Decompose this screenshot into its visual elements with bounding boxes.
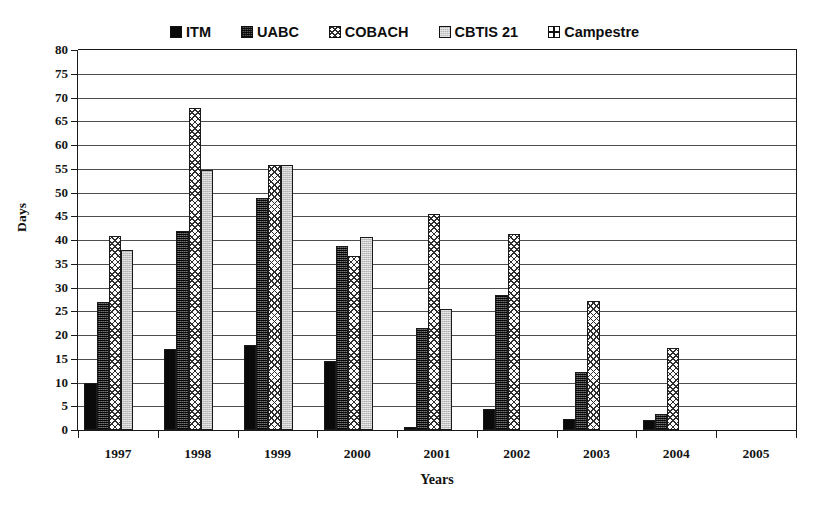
bar-uabc-1997	[97, 302, 109, 430]
x-axis-tick-label: 2001	[424, 446, 451, 462]
y-axis-tick	[71, 240, 78, 241]
bar-cbtis-21-1997	[121, 250, 133, 431]
gridline	[78, 193, 796, 194]
gridline	[78, 169, 796, 170]
y-axis-tick	[71, 216, 78, 217]
x-axis-tick	[317, 430, 318, 438]
bar-uabc-2001	[416, 328, 428, 430]
y-axis-tick	[71, 74, 78, 75]
bar-cobach-1998	[189, 108, 201, 430]
bar-itm-2001	[404, 427, 416, 430]
legend-item-uabc[interactable]: UABC	[241, 25, 299, 40]
y-axis-tick	[71, 193, 78, 194]
y-axis-tick-label: 50	[55, 185, 68, 201]
x-axis-tick-label: 2003	[583, 446, 610, 462]
bar-uabc-2004	[655, 414, 667, 430]
y-axis-title: Days	[14, 203, 30, 232]
legend-label: Campestre	[564, 25, 639, 40]
y-axis-tick-label: 40	[55, 232, 68, 248]
plot-area: 80757065605550454035302520151050 1997199…	[77, 50, 796, 431]
bar-uabc-1998	[176, 231, 188, 430]
y-axis-tick-label: 0	[62, 422, 69, 438]
legend-item-cobach[interactable]: COBACH	[329, 25, 409, 40]
legend-item-cbtis-21[interactable]: CBTIS 21	[439, 25, 519, 40]
legend-swatch-cobach-icon	[329, 26, 341, 38]
x-axis-tick	[397, 430, 398, 438]
plot-top-border	[78, 49, 796, 50]
y-axis-tick	[71, 430, 78, 431]
gridline	[78, 98, 796, 99]
legend-swatch-campestre-icon	[548, 26, 560, 38]
legend-swatch-cbtis-21-icon	[439, 26, 451, 38]
legend-item-campestre[interactable]: Campestre	[548, 25, 639, 40]
bar-cobach-1999	[268, 165, 280, 430]
y-axis-tick-label: 30	[55, 280, 68, 296]
bar-itm-2000	[324, 361, 336, 430]
gridline	[78, 121, 796, 122]
y-axis-tick	[71, 50, 78, 51]
bar-itm-1998	[164, 349, 176, 430]
bar-cbtis-21-1998	[201, 170, 213, 430]
x-axis-tick-label: 1997	[104, 446, 131, 462]
x-axis-title: Years	[78, 472, 796, 488]
x-axis-tick-label: 1998	[184, 446, 211, 462]
bar-cbtis-21-1999	[281, 165, 293, 430]
plot-right-border	[796, 49, 797, 430]
y-axis-tick-label: 55	[55, 161, 68, 177]
legend-item-itm[interactable]: ITM	[170, 25, 211, 40]
y-axis-tick-label: 5	[62, 398, 69, 414]
x-axis-tick	[477, 430, 478, 438]
x-axis-tick	[716, 430, 717, 438]
y-axis-tick	[71, 335, 78, 336]
y-axis-tick-label: 15	[55, 351, 68, 367]
y-axis-tick	[71, 383, 78, 384]
y-axis-tick	[71, 311, 78, 312]
y-axis-tick	[71, 98, 78, 99]
bar-uabc-1999	[256, 198, 268, 430]
y-axis-tick-label: 35	[55, 256, 68, 272]
y-axis-tick	[71, 406, 78, 407]
bar-itm-1999	[244, 345, 256, 430]
bar-uabc-2000	[336, 246, 348, 430]
y-axis-tick	[71, 145, 78, 146]
bar-itm-1997	[84, 383, 96, 431]
bar-cobach-2001	[428, 214, 440, 430]
chart-legend: ITMUABCCOBACHCBTIS 21Campestre	[170, 22, 690, 42]
bar-cobach-2002	[508, 234, 520, 430]
y-axis-tick	[71, 264, 78, 265]
bar-uabc-2002	[495, 295, 507, 430]
y-axis-tick-label: 60	[55, 137, 68, 153]
legend-label: COBACH	[345, 25, 409, 40]
bar-uabc-2003	[575, 372, 587, 430]
y-axis-tick-label: 65	[55, 113, 68, 129]
bar-itm-2003	[563, 419, 575, 430]
bar-cobach-2000	[348, 256, 360, 430]
legend-label: ITM	[186, 25, 211, 40]
bar-chart: ITMUABCCOBACHCBTIS 21Campestre Days 8075…	[0, 0, 830, 509]
y-axis-tick-label: 10	[55, 375, 68, 391]
bar-itm-2002	[483, 409, 495, 430]
legend-swatch-uabc-icon	[241, 26, 253, 38]
legend-label: CBTIS 21	[455, 25, 519, 40]
x-axis-tick	[796, 430, 797, 438]
gridline	[78, 74, 796, 75]
bar-itm-2004	[643, 420, 655, 430]
legend-label: UABC	[257, 25, 299, 40]
y-axis-tick	[71, 359, 78, 360]
y-axis-tick	[71, 169, 78, 170]
y-axis-tick-label: 75	[55, 66, 68, 82]
x-axis-tick-label: 2005	[743, 446, 770, 462]
y-axis-tick-label: 70	[55, 90, 68, 106]
y-axis-tick-label: 20	[55, 327, 68, 343]
x-axis-tick	[238, 430, 239, 438]
y-axis-tick	[71, 288, 78, 289]
x-axis-tick	[557, 430, 558, 438]
gridline	[78, 145, 796, 146]
x-axis-tick-label: 1999	[264, 446, 291, 462]
x-axis-tick-label: 2002	[503, 446, 530, 462]
y-axis-tick-label: 45	[55, 208, 68, 224]
bar-cobach-1997	[109, 236, 121, 430]
bar-cobach-2003	[587, 301, 599, 430]
y-axis-tick-label: 80	[55, 42, 68, 58]
y-axis-tick-label: 25	[55, 303, 68, 319]
